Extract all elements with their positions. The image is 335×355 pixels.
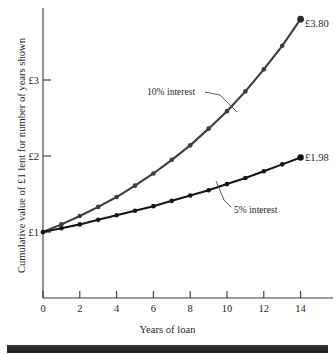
series-data-point bbox=[225, 109, 230, 114]
chart-figure: Cumulative value of £1 lent for number o… bbox=[0, 0, 335, 355]
y-tick-label-3: £3 bbox=[29, 75, 40, 86]
series-data-point bbox=[262, 67, 267, 72]
series-data-point bbox=[41, 230, 46, 235]
series-data-point bbox=[151, 171, 156, 176]
line-chart-plot: £1 £2 £3 0 2 4 6 8 10 12 14 10% interest… bbox=[0, 0, 335, 355]
x-axis-title: Years of loan bbox=[0, 324, 335, 335]
annotation-10-percent: 10% interest bbox=[147, 86, 196, 97]
series-data-point bbox=[206, 126, 211, 131]
x-tick-label-0: 0 bbox=[40, 303, 45, 314]
x-tick-label-14: 14 bbox=[295, 303, 306, 314]
series-data-point bbox=[225, 182, 230, 187]
y-tick-label-2: £2 bbox=[29, 151, 40, 162]
series-data-point bbox=[96, 218, 101, 223]
series-data-point bbox=[59, 226, 64, 231]
series-data-point bbox=[133, 183, 138, 188]
series-data-point bbox=[170, 199, 175, 204]
series-data-point bbox=[243, 89, 248, 94]
series-data-point bbox=[96, 205, 101, 210]
series-data-point bbox=[78, 222, 83, 227]
series-path bbox=[43, 158, 301, 232]
series-endpoint-marker bbox=[297, 16, 304, 23]
series-5-percent-line bbox=[43, 158, 301, 232]
end-label-5-percent: £1.98 bbox=[305, 152, 329, 163]
series-data-point bbox=[78, 214, 83, 219]
x-tick-label-2: 2 bbox=[77, 303, 82, 314]
x-tick-label-12: 12 bbox=[259, 303, 270, 314]
series-data-point bbox=[188, 143, 193, 148]
x-tick-label-4: 4 bbox=[114, 303, 120, 314]
bottom-border-bar bbox=[7, 345, 328, 353]
x-tick-label-6: 6 bbox=[151, 303, 156, 314]
series-endpoint-marker bbox=[297, 154, 303, 160]
series-data-point bbox=[133, 208, 138, 213]
x-tick-label-10: 10 bbox=[222, 303, 233, 314]
x-tick-label-8: 8 bbox=[188, 303, 193, 314]
y-tick-label-1: £1 bbox=[29, 227, 40, 238]
series-data-point bbox=[170, 158, 175, 163]
series-data-point bbox=[280, 44, 285, 49]
annotation-5-percent: 5% interest bbox=[234, 204, 278, 215]
series-data-point bbox=[114, 195, 119, 200]
series-data-point bbox=[280, 162, 285, 167]
series-data-point bbox=[262, 169, 267, 174]
series-data-point bbox=[188, 193, 193, 198]
series-data-point bbox=[206, 188, 211, 193]
series-data-point bbox=[151, 204, 156, 209]
leader-line-10-percent bbox=[205, 92, 237, 112]
series-data-point bbox=[114, 213, 119, 218]
series-data-point bbox=[243, 176, 248, 181]
end-label-10-percent: £3.80 bbox=[305, 18, 329, 29]
series-5-percent-markers bbox=[41, 154, 304, 234]
